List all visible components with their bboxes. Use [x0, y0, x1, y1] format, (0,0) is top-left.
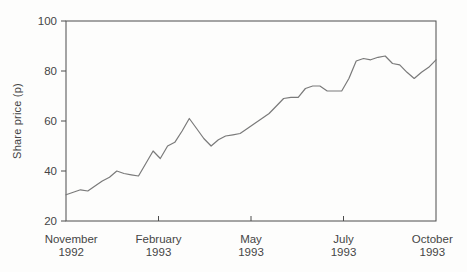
x-tick-label-year: 1993 [331, 246, 357, 258]
y-tick-label: 40 [44, 165, 57, 177]
x-tick-label-month: May [240, 233, 262, 245]
y-tick-label: 100 [38, 15, 57, 27]
y-tick-label: 80 [44, 65, 57, 77]
x-tick-label-month: November [45, 233, 98, 245]
x-tick-label-year: 1993 [420, 246, 446, 258]
y-tick-label: 20 [44, 215, 57, 227]
share-price-line-chart: Share price (p) 20406080100November1992F… [0, 0, 467, 272]
plot-border [66, 21, 436, 221]
x-tick-label-year: 1993 [146, 246, 172, 258]
chart-canvas: 20406080100November1992February1993May19… [0, 0, 467, 272]
share-price-line [66, 56, 436, 195]
x-tick-label-month: October [412, 233, 453, 245]
x-tick-label-year: 1993 [238, 246, 264, 258]
x-tick-label-month: July [333, 233, 354, 245]
y-tick-label: 60 [44, 115, 57, 127]
x-tick-label-month: February [135, 233, 181, 245]
x-tick-label-year: 1992 [58, 246, 84, 258]
